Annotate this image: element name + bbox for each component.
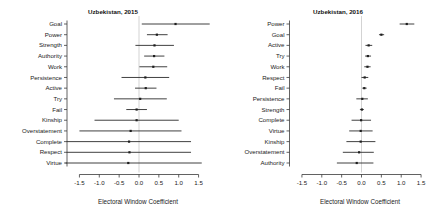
category-labels-right: PowerGoalActiveTryWorkRespectFailPersist… [245,20,286,166]
category-label: Fail [52,106,62,113]
point-estimate-marker [406,23,408,25]
x-axis-left: -1.5-1.0-0.50.00.51.01.5 [74,175,203,187]
point-estimate-marker [128,141,130,143]
category-labels-left: GoalPowerStrengthAuthorityWorkPersistenc… [22,20,63,166]
x-axis-tick-label: 1.5 [417,179,426,186]
category-label: Work [270,63,285,70]
category-label: Work [48,63,63,70]
point-estimate-marker [152,66,154,68]
chart-panel-left: Uzbekistan, 2015 GoalPowerStrengthAuthor… [0,0,220,214]
x-axis-tick-label: 0.5 [377,179,386,186]
category-label: Persistence [30,74,62,81]
point-estimate-marker [130,130,132,132]
category-label: Respect [40,148,63,155]
category-label: Power [45,31,62,38]
panel-title-left: Uzbekistan, 2015 [88,8,138,15]
x-axis-tick-label: 0.0 [135,179,144,186]
category-label: Goal [49,20,62,27]
ci-series-right [337,23,414,164]
x-axis-tick-label: 0.0 [357,179,366,186]
category-label: Virtue [269,127,285,134]
category-label: Authority [38,52,63,59]
x-axis-tick-label: -0.5 [114,179,125,186]
category-label: Overstatement [245,148,285,155]
point-estimate-marker [360,141,362,143]
x-axis-tick-label: 1.5 [194,179,203,186]
category-label: Active [268,41,285,48]
point-estimate-marker [363,87,365,89]
category-label: Respect [262,74,285,81]
x-axis-tick-label: -1.0 [317,179,328,186]
category-label: Persistence [253,95,285,102]
category-label: Try [53,95,63,102]
point-estimate-marker [367,55,369,57]
x-axis-tick-label: -1.5 [297,179,308,186]
point-estimate-marker [358,151,360,153]
x-axis-title-left: Electoral Window Coefficient [98,198,178,205]
forest-plot-figure: Uzbekistan, 2015 GoalPowerStrengthAuthor… [0,0,441,214]
point-estimate-marker [153,55,155,57]
category-label: Complete [36,138,63,145]
x-axis-tick-label: -0.5 [336,179,347,186]
ci-series-left [66,23,210,164]
x-axis-title-right: Electoral Window Coefficient [320,198,400,205]
category-label: Strength [39,41,62,48]
x-axis-tick-label: 1.0 [174,179,183,186]
point-estimate-marker [360,119,362,121]
x-axis-tick-label: 0.5 [155,179,164,186]
point-estimate-marker [139,98,141,100]
point-estimate-marker [366,66,368,68]
x-axis-tick-label: -1.5 [74,179,85,186]
category-label: Authority [260,159,285,166]
forest-plot-svg-left: Uzbekistan, 2015 GoalPowerStrengthAuthor… [0,0,220,214]
point-estimate-marker [136,108,138,110]
point-estimate-marker [356,162,358,164]
point-estimate-marker [145,87,147,89]
category-label: Fail [275,84,285,91]
forest-plot-svg-right: Uzbekistan, 2016 PowerGoalActiveTryWorkR… [220,0,441,214]
x-axis-tick-label: -1.0 [94,179,105,186]
category-label: Kinship [265,138,286,145]
category-label: Active [45,84,62,91]
point-estimate-marker [368,44,370,46]
point-estimate-marker [364,76,366,78]
point-estimate-marker [136,119,138,121]
panel-title-right: Uzbekistan, 2016 [313,8,363,15]
category-label: Overstatement [22,127,62,134]
point-estimate-marker [156,34,158,36]
category-label: Virtue [46,159,62,166]
category-label: Strength [261,106,284,113]
x-axis-tick-label: 1.0 [397,179,406,186]
category-ticks-left [64,21,67,167]
point-estimate-marker [361,98,363,100]
point-estimate-marker [360,130,362,132]
x-axis-right: -1.5-1.0-0.50.00.51.01.5 [297,175,426,187]
point-estimate-marker [153,44,155,46]
point-estimate-marker [380,34,382,36]
category-label: Complete [258,116,285,123]
category-label: Power [267,20,284,27]
point-estimate-marker [174,23,176,25]
point-estimate-marker [127,162,129,164]
chart-panel-right: Uzbekistan, 2016 PowerGoalActiveTryWorkR… [220,0,440,214]
category-label: Kinship [42,116,63,123]
category-label: Goal [272,31,285,38]
category-label: Try [276,52,286,59]
point-estimate-marker [128,151,130,153]
category-ticks-right [287,21,290,167]
point-estimate-marker [361,108,363,110]
point-estimate-marker [144,76,146,78]
